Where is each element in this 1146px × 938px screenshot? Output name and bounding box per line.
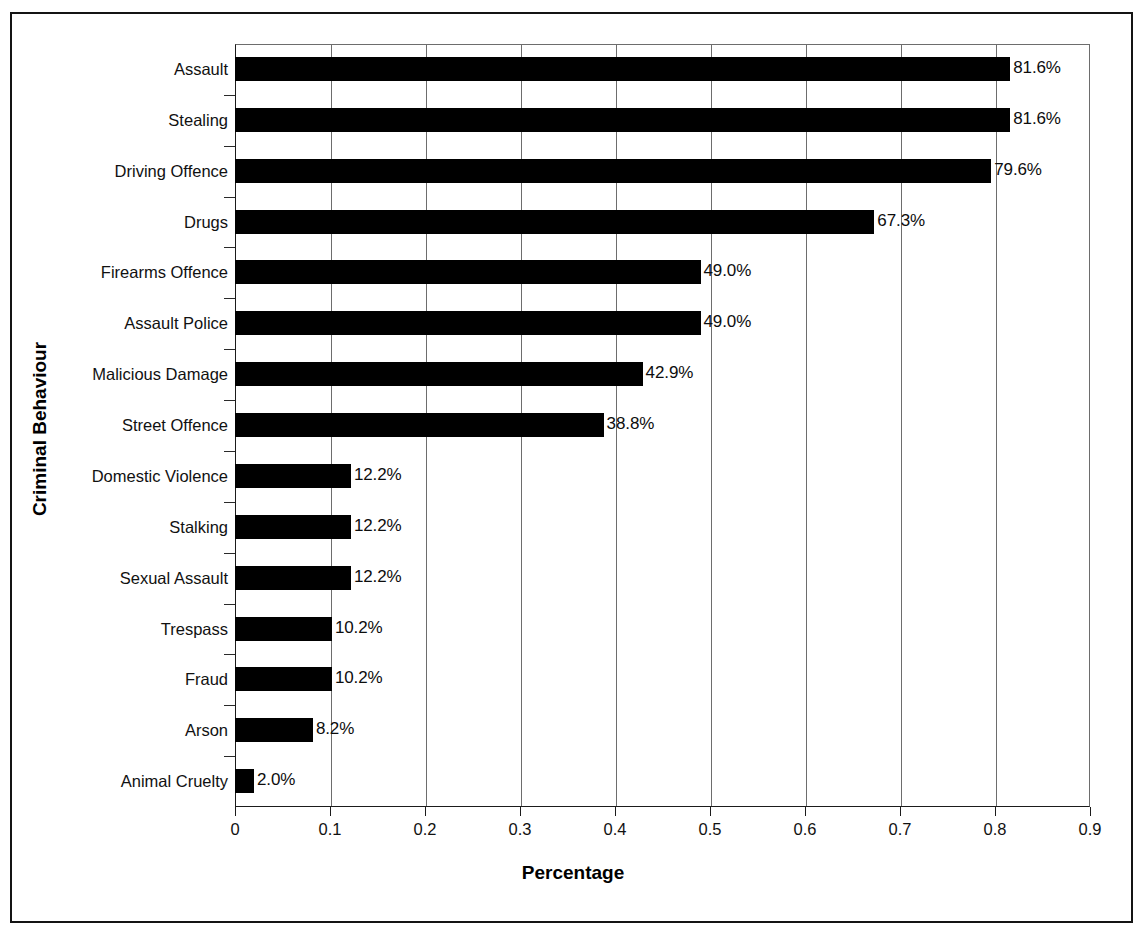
x-axis-tick bbox=[425, 807, 426, 816]
bar-value-label: 2.0% bbox=[257, 767, 295, 793]
x-axis-tick-label: 0.7 bbox=[870, 818, 930, 840]
x-axis-tick-label: 0.3 bbox=[490, 818, 550, 840]
y-axis-tick bbox=[224, 502, 235, 503]
y-axis-title: Criminal Behaviour bbox=[29, 319, 51, 539]
bar-row: 8.2% bbox=[235, 705, 1090, 756]
x-axis-tick-label: 0.6 bbox=[775, 818, 835, 840]
bar bbox=[235, 362, 643, 386]
bar bbox=[235, 515, 351, 539]
bar-row: 10.2% bbox=[235, 654, 1090, 705]
x-axis-title: Percentage bbox=[0, 862, 1146, 884]
y-axis-tick bbox=[224, 604, 235, 605]
category-label: Driving Offence bbox=[0, 159, 228, 183]
x-axis-tick-label: 0.9 bbox=[1060, 818, 1120, 840]
bar-chart-figure: 81.6%81.6%79.6%67.3%49.0%49.0%42.9%38.8%… bbox=[0, 0, 1146, 938]
bar-row: 42.9% bbox=[235, 349, 1090, 400]
y-axis-tick bbox=[224, 95, 235, 96]
bar-row: 67.3% bbox=[235, 197, 1090, 248]
category-label: Assault bbox=[0, 57, 228, 81]
bar-value-label: 12.2% bbox=[354, 513, 402, 539]
y-axis-tick bbox=[224, 146, 235, 147]
bar-value-label: 12.2% bbox=[354, 564, 402, 590]
bar-row: 81.6% bbox=[235, 95, 1090, 146]
y-axis-tick bbox=[224, 349, 235, 350]
x-axis-tick bbox=[615, 807, 616, 816]
x-axis-tick-label: 0.5 bbox=[680, 818, 740, 840]
bar bbox=[235, 108, 1010, 132]
bar bbox=[235, 210, 874, 234]
y-axis-tick bbox=[224, 553, 235, 554]
bar-row: 12.2% bbox=[235, 451, 1090, 502]
bar-row: 12.2% bbox=[235, 553, 1090, 604]
x-axis-tick-label: 0.1 bbox=[300, 818, 360, 840]
y-axis-tick bbox=[224, 298, 235, 299]
bar-value-label: 67.3% bbox=[877, 208, 925, 234]
category-label: Drugs bbox=[0, 210, 228, 234]
bar-value-label: 81.6% bbox=[1013, 55, 1061, 81]
bar bbox=[235, 413, 604, 437]
y-axis-tick bbox=[224, 756, 235, 757]
bar bbox=[235, 464, 351, 488]
x-axis-tick bbox=[330, 807, 331, 816]
y-axis-tick bbox=[224, 654, 235, 655]
category-label: Animal Cruelty bbox=[0, 769, 228, 793]
y-axis-tick bbox=[224, 400, 235, 401]
bar-row: 12.2% bbox=[235, 502, 1090, 553]
bar-value-label: 42.9% bbox=[646, 360, 694, 386]
category-label: Arson bbox=[0, 718, 228, 742]
bar-value-label: 10.2% bbox=[335, 665, 383, 691]
bar bbox=[235, 311, 701, 335]
bar bbox=[235, 617, 332, 641]
bar-row: 2.0% bbox=[235, 756, 1090, 807]
bar-row: 81.6% bbox=[235, 44, 1090, 95]
bar bbox=[235, 260, 701, 284]
x-axis-tick bbox=[235, 807, 236, 816]
bar bbox=[235, 667, 332, 691]
bar-value-label: 81.6% bbox=[1013, 106, 1061, 132]
x-axis-tick bbox=[995, 807, 996, 816]
x-axis-tick bbox=[900, 807, 901, 816]
y-axis-tick bbox=[224, 197, 235, 198]
y-axis-tick bbox=[224, 451, 235, 452]
bar bbox=[235, 769, 254, 793]
category-label: Sexual Assault bbox=[0, 566, 228, 590]
y-axis-tick bbox=[224, 705, 235, 706]
bar bbox=[235, 566, 351, 590]
bars-container: 81.6%81.6%79.6%67.3%49.0%49.0%42.9%38.8%… bbox=[235, 44, 1090, 807]
bar bbox=[235, 159, 991, 183]
x-axis-tick-label: 0.8 bbox=[965, 818, 1025, 840]
x-axis-tick-label: 0.4 bbox=[585, 818, 645, 840]
category-label: Fraud bbox=[0, 667, 228, 691]
bar-row: 10.2% bbox=[235, 604, 1090, 655]
bar bbox=[235, 57, 1010, 81]
x-axis-tick bbox=[1090, 807, 1091, 816]
x-axis-tick-label: 0.2 bbox=[395, 818, 455, 840]
category-label: Firearms Offence bbox=[0, 260, 228, 284]
bar-value-label: 49.0% bbox=[704, 309, 752, 335]
bar bbox=[235, 718, 313, 742]
category-label: Trespass bbox=[0, 617, 228, 641]
x-axis-tick bbox=[520, 807, 521, 816]
bar-row: 38.8% bbox=[235, 400, 1090, 451]
x-axis-tick bbox=[805, 807, 806, 816]
bar-value-label: 10.2% bbox=[335, 615, 383, 641]
bar-row: 49.0% bbox=[235, 298, 1090, 349]
bar-value-label: 49.0% bbox=[704, 258, 752, 284]
x-axis-tick-label: 0 bbox=[205, 818, 265, 840]
y-axis-tick bbox=[224, 247, 235, 248]
bar-value-label: 79.6% bbox=[994, 157, 1042, 183]
bar-value-label: 8.2% bbox=[316, 716, 354, 742]
bar-value-label: 12.2% bbox=[354, 462, 402, 488]
bar-row: 79.6% bbox=[235, 146, 1090, 197]
category-label: Stealing bbox=[0, 108, 228, 132]
x-axis-tick bbox=[710, 807, 711, 816]
bar-value-label: 38.8% bbox=[607, 411, 655, 437]
bar-row: 49.0% bbox=[235, 247, 1090, 298]
